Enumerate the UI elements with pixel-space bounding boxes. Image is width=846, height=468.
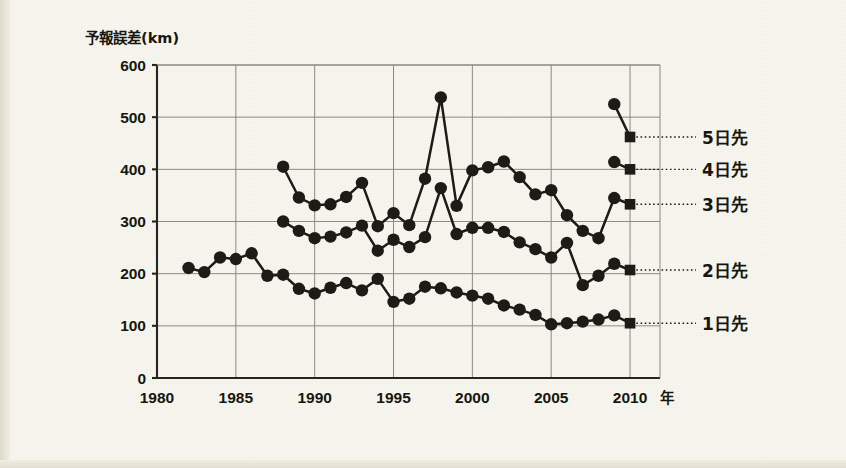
data-point bbox=[277, 269, 289, 281]
data-point bbox=[198, 266, 210, 278]
data-point bbox=[277, 161, 289, 173]
data-point bbox=[372, 245, 384, 257]
data-point bbox=[372, 273, 384, 285]
data-point bbox=[324, 282, 336, 294]
data-point bbox=[245, 247, 257, 259]
data-point bbox=[513, 171, 525, 183]
legend-label-4日先: 4日先 bbox=[702, 160, 748, 180]
x-tick-label-1995: 1995 bbox=[376, 389, 411, 406]
data-point bbox=[435, 282, 447, 294]
data-point bbox=[529, 309, 541, 321]
data-point bbox=[561, 209, 573, 221]
data-point bbox=[482, 222, 494, 234]
data-point bbox=[293, 191, 305, 203]
data-point bbox=[324, 198, 336, 210]
y-tick-label-0: 0 bbox=[137, 370, 146, 387]
data-point bbox=[387, 234, 399, 246]
data-point bbox=[308, 199, 320, 211]
data-point bbox=[340, 226, 352, 238]
y-tick-label-500: 500 bbox=[120, 109, 146, 126]
series-terminal-marker bbox=[625, 318, 636, 329]
data-point bbox=[419, 281, 431, 293]
data-point bbox=[529, 188, 541, 200]
series-terminal-marker bbox=[625, 265, 636, 276]
series-terminal-marker bbox=[625, 199, 636, 210]
data-point bbox=[482, 161, 494, 173]
data-point bbox=[592, 270, 604, 282]
data-point bbox=[356, 284, 368, 296]
x-tick-label-2010: 2010 bbox=[613, 389, 647, 406]
series-5 bbox=[182, 247, 635, 330]
data-point bbox=[577, 279, 589, 291]
data-point bbox=[498, 226, 510, 238]
data-point bbox=[498, 155, 510, 167]
x-axis-unit-label: 年 bbox=[660, 389, 675, 406]
data-point bbox=[561, 237, 573, 249]
x-tick-label-1990: 1990 bbox=[297, 389, 331, 406]
data-point bbox=[293, 225, 305, 237]
y-tick-label-100: 100 bbox=[120, 317, 146, 334]
data-point bbox=[230, 253, 242, 265]
data-point bbox=[482, 293, 494, 305]
data-point bbox=[608, 309, 620, 321]
data-point bbox=[387, 207, 399, 219]
data-point bbox=[435, 182, 447, 194]
data-point bbox=[324, 230, 336, 242]
data-point bbox=[419, 231, 431, 243]
data-point bbox=[293, 283, 305, 295]
data-point bbox=[214, 251, 226, 263]
data-point bbox=[261, 270, 273, 282]
data-point bbox=[608, 156, 620, 168]
forecast-error-line-chart: 0100200300400500600198019851990199520002… bbox=[0, 0, 846, 468]
data-point bbox=[372, 220, 384, 232]
data-point bbox=[513, 303, 525, 315]
data-point bbox=[340, 191, 352, 203]
x-tick-label-1980: 1980 bbox=[140, 389, 174, 406]
data-point bbox=[308, 287, 320, 299]
data-point bbox=[277, 215, 289, 227]
data-point bbox=[435, 91, 447, 103]
data-point bbox=[450, 200, 462, 212]
data-point bbox=[419, 173, 431, 185]
data-point bbox=[387, 296, 399, 308]
series-terminal-marker bbox=[625, 164, 636, 175]
y-tick-label-400: 400 bbox=[120, 161, 146, 178]
data-point bbox=[403, 219, 415, 231]
data-point bbox=[545, 251, 557, 263]
y-axis-title: 予報誤差(km) bbox=[85, 29, 179, 46]
series-1 bbox=[608, 98, 635, 142]
y-tick-label-200: 200 bbox=[120, 265, 146, 282]
data-point bbox=[450, 228, 462, 240]
data-point bbox=[466, 222, 478, 234]
data-point bbox=[577, 315, 589, 327]
y-tick-label-300: 300 bbox=[120, 213, 146, 230]
series-line-3 bbox=[283, 97, 630, 238]
data-point bbox=[545, 318, 557, 330]
data-point bbox=[561, 317, 573, 329]
data-point bbox=[592, 232, 604, 244]
data-point bbox=[356, 219, 368, 231]
data-point bbox=[403, 293, 415, 305]
data-point bbox=[498, 299, 510, 311]
data-point bbox=[340, 277, 352, 289]
legend-label-1日先: 1日先 bbox=[702, 314, 748, 334]
data-point bbox=[592, 313, 604, 325]
axis-layer: 0100200300400500600198019851990199520002… bbox=[85, 29, 675, 406]
data-point bbox=[356, 177, 368, 189]
legend-label-3日先: 3日先 bbox=[702, 195, 748, 215]
series-2 bbox=[608, 156, 635, 175]
data-point bbox=[608, 192, 620, 204]
data-point bbox=[182, 262, 194, 274]
x-tick-label-2005: 2005 bbox=[534, 389, 569, 406]
x-tick-label-2000: 2000 bbox=[455, 389, 489, 406]
x-tick-label-1985: 1985 bbox=[219, 389, 254, 406]
legend-label-2日先: 2日先 bbox=[702, 261, 748, 281]
data-point bbox=[466, 164, 478, 176]
label-layer: 5日先4日先3日先2日先1日先 bbox=[636, 128, 748, 334]
data-point bbox=[608, 98, 620, 110]
data-point bbox=[450, 286, 462, 298]
data-point bbox=[608, 258, 620, 270]
data-point bbox=[513, 236, 525, 248]
data-point bbox=[529, 243, 541, 255]
data-point bbox=[577, 225, 589, 237]
